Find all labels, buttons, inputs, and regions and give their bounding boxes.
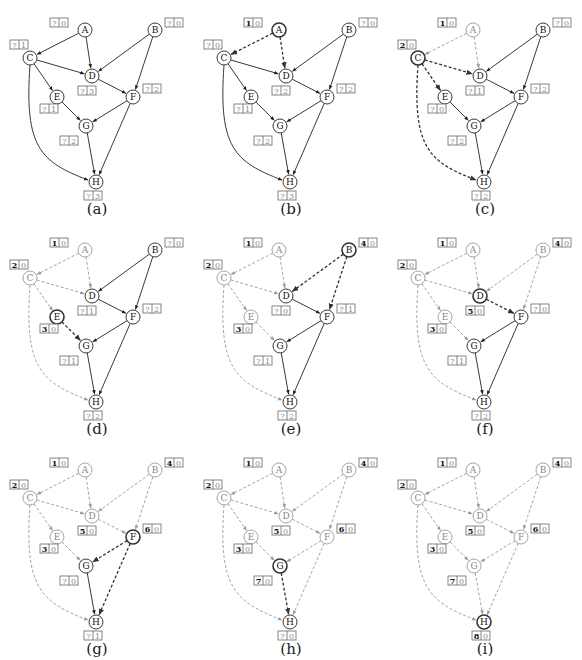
label-box-g: 70 (448, 576, 466, 586)
svg-text:F: F (130, 92, 136, 102)
indegree-value: 0 (215, 481, 220, 490)
order-value: 3 (42, 324, 48, 334)
indegree-value: 0 (51, 325, 56, 334)
edge-f-g (287, 541, 321, 562)
edge-f-h (487, 323, 518, 394)
node-h: H (283, 395, 297, 409)
label-box-c: 20 (10, 480, 28, 490)
order-value: 2 (12, 260, 18, 270)
node-g: G (273, 559, 287, 573)
node-g: G (467, 339, 481, 353)
panel-g: ABCDEFGH104020503060?0?1 (g) (0, 440, 194, 660)
indegree-value: 1 (21, 41, 26, 50)
indegree-value: 0 (348, 525, 353, 534)
label-box-f: 60 (531, 524, 549, 534)
svg-text:F: F (518, 312, 524, 322)
label-box-e: ?1 (234, 104, 252, 114)
indegree-value: 0 (21, 261, 26, 270)
edge-a-d (280, 477, 285, 508)
svg-text:G: G (470, 341, 477, 351)
node-b: B (342, 243, 356, 257)
indegree-value: 0 (154, 525, 159, 534)
edge-d-f (486, 519, 514, 533)
label-box-g: ?1 (448, 356, 466, 366)
indegree-value: 2 (154, 305, 159, 314)
label-box-d: 50 (78, 526, 96, 536)
edge-c-h (29, 65, 88, 180)
edge-b-d (292, 34, 343, 71)
panel-b: ABCDEFGH10?0?0?2?1?2?2?3 (b) (194, 0, 388, 220)
order-value: ? (339, 85, 343, 94)
label-box-f: 60 (337, 524, 355, 534)
label-box-a: 10 (244, 458, 262, 468)
order-value: 1 (246, 238, 252, 248)
order-value: ? (256, 357, 260, 366)
indegree-value: 0 (542, 305, 547, 314)
indegree-value: 0 (215, 261, 220, 270)
indegree-value: 0 (255, 19, 260, 28)
order-value: 8 (474, 631, 480, 641)
indegree-value: 0 (409, 41, 414, 50)
svg-text:F: F (130, 312, 136, 322)
node-f: F (514, 530, 528, 544)
svg-text:E: E (54, 532, 61, 542)
edge-b-f (523, 257, 540, 310)
indegree-value: 0 (564, 459, 569, 468)
label-box-c: 20 (204, 260, 222, 270)
order-value: ? (361, 19, 365, 28)
edge-d-f (292, 519, 320, 533)
edge-e-g (62, 102, 80, 120)
edge-c-d (425, 280, 473, 294)
edge-c-h (29, 505, 88, 620)
edge-f-h (487, 543, 518, 614)
label-box-c: 20 (10, 260, 28, 270)
order-value: ? (62, 137, 66, 146)
order-value: ? (533, 85, 537, 94)
label-box-e: 30 (428, 324, 446, 334)
svg-text:C: C (221, 273, 228, 283)
svg-text:B: B (540, 25, 547, 35)
edge-f-h (293, 323, 324, 394)
node-h: H (89, 395, 103, 409)
svg-text:E: E (54, 312, 61, 322)
svg-text:E: E (442, 312, 449, 322)
edge-c-d (37, 60, 85, 74)
edge-e-g (256, 102, 274, 120)
edge-c-h (417, 65, 476, 180)
svg-text:H: H (480, 177, 488, 187)
node-h: H (477, 615, 491, 629)
edge-f-h (99, 103, 130, 174)
svg-text:G: G (276, 341, 283, 351)
caption-h: (h) (194, 640, 388, 658)
graph-c: ABCDEFGH10?020?1?0?2?2?2 (388, 0, 582, 220)
svg-text:G: G (276, 121, 283, 131)
label-box-e: 30 (234, 544, 252, 554)
node-g: G (467, 119, 481, 133)
svg-text:E: E (248, 312, 255, 322)
svg-text:D: D (476, 291, 483, 301)
edge-e-g (450, 542, 468, 560)
indegree-value: 0 (459, 577, 464, 586)
node-d: D (279, 69, 293, 83)
node-a: A (78, 243, 92, 257)
edge-a-c (425, 473, 467, 494)
edge-a-d (280, 37, 285, 68)
label-box-c: 20 (398, 480, 416, 490)
label-box-g: ?0 (60, 576, 78, 586)
edge-e-g (450, 322, 468, 340)
indegree-value: 1 (459, 357, 464, 366)
label-box-a: 10 (244, 18, 262, 28)
svg-text:H: H (286, 177, 294, 187)
svg-text:C: C (27, 493, 34, 503)
node-a: A (272, 463, 286, 477)
label-box-c: ?1 (10, 40, 28, 50)
edge-b-d (486, 254, 537, 291)
caption-f: (f) (388, 420, 582, 438)
edge-g-h (475, 133, 482, 174)
edge-c-d (231, 500, 279, 514)
order-value: ? (62, 357, 66, 366)
edge-g-h (475, 573, 482, 614)
edge-f-h (99, 543, 130, 614)
edge-b-d (486, 34, 537, 71)
edge-b-f (329, 257, 346, 310)
